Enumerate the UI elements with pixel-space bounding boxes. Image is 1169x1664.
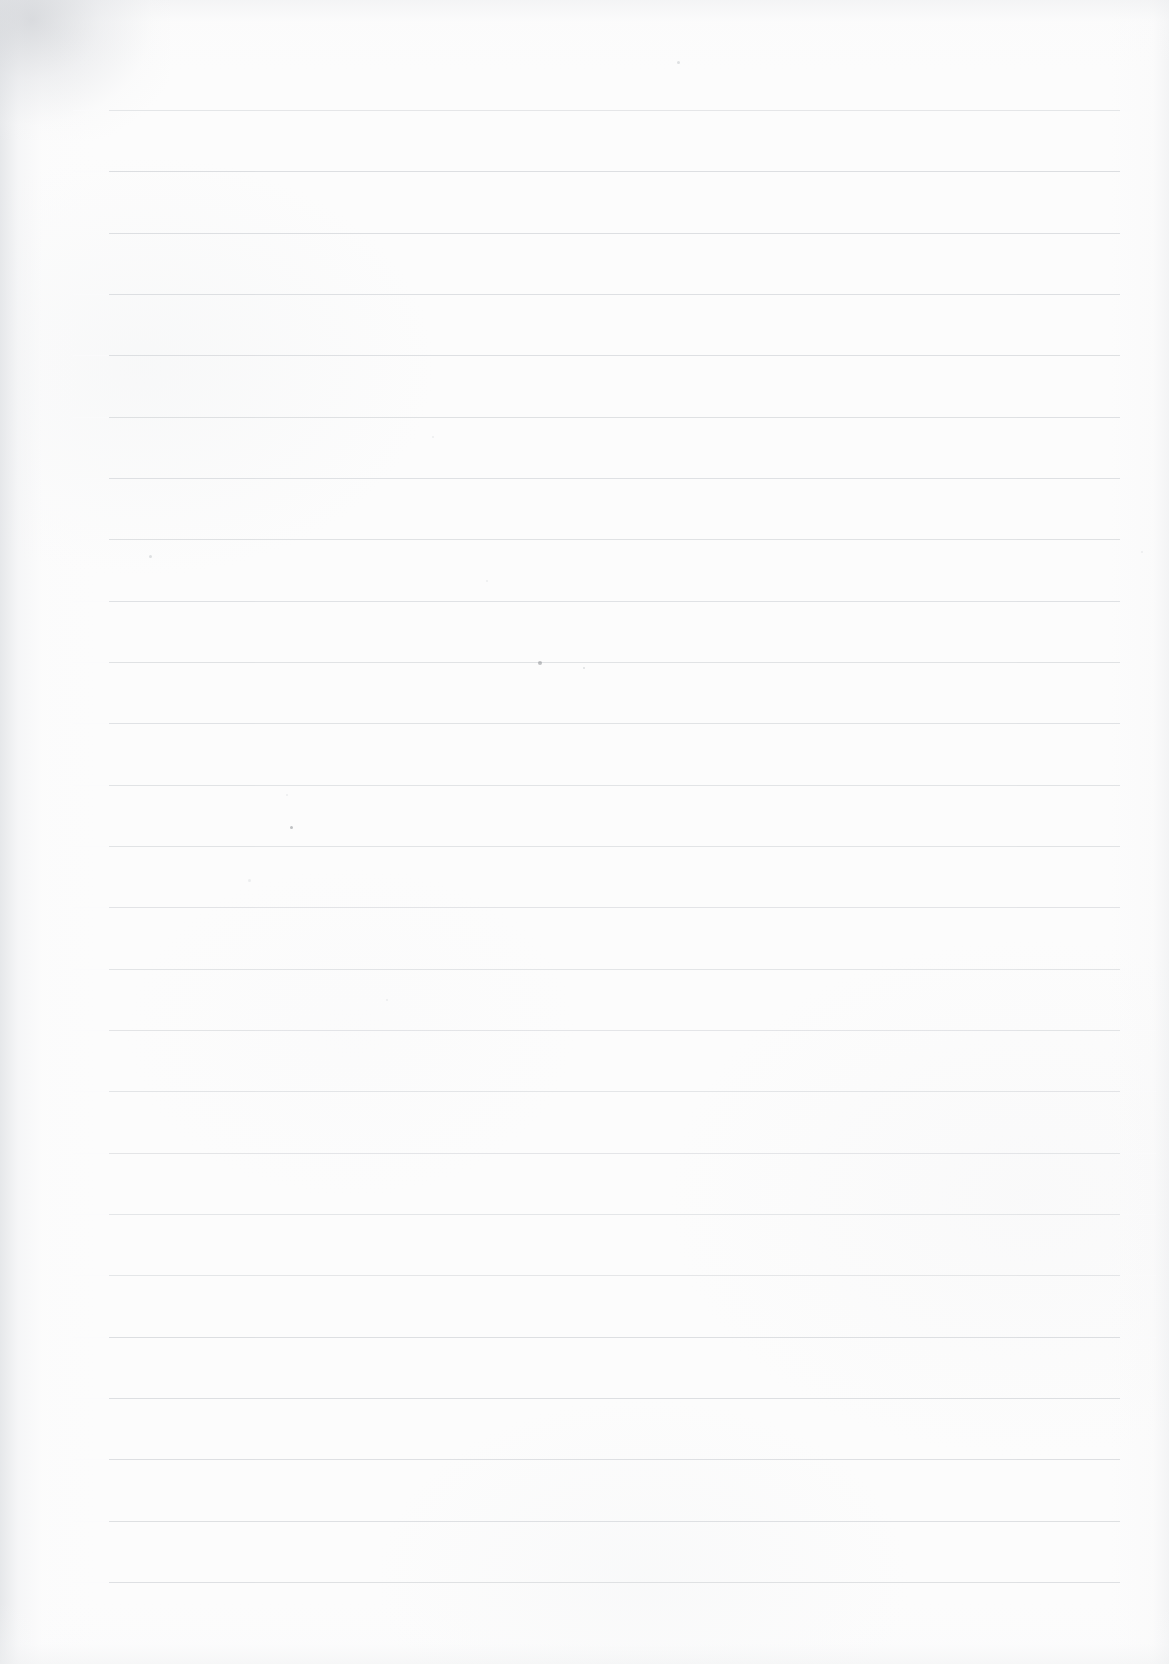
notebook-page <box>0 0 1169 1664</box>
page-body-text <box>73 110 1156 1590</box>
